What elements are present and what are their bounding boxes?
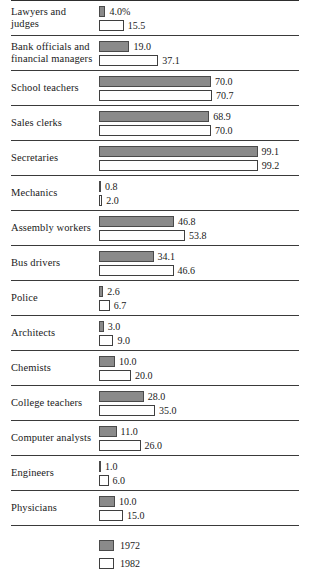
bar-value-label: 99.2: [262, 160, 280, 171]
bar-line: 15.5: [99, 20, 299, 31]
bar-value-label: 15.0: [127, 510, 145, 521]
bar-line: 15.0: [99, 510, 299, 521]
bar-line: 0.8: [99, 181, 299, 192]
bar-series-1972: [99, 6, 105, 17]
bar-value-label: 99.1: [262, 146, 280, 157]
bar-value-label: 68.9: [213, 111, 231, 122]
bar-value-label: 19.0: [133, 41, 151, 52]
bar-line: 3.0: [99, 321, 299, 332]
bar-value-label: 6.7: [114, 300, 127, 311]
chart-row: Bus drivers34.146.6: [0, 246, 310, 280]
bar-series-1972: [99, 76, 211, 87]
row-category-label: Police: [11, 292, 99, 305]
bar-line: 2.6: [99, 286, 299, 297]
bar-line: 46.8: [99, 216, 299, 227]
row-bar-group: 19.037.1: [99, 37, 299, 70]
chart-legend: 19721982: [0, 526, 310, 569]
row-category-label: Sales clerks: [11, 117, 99, 130]
bar-value-label: 70.0: [215, 125, 233, 136]
bar-line: 70.0: [99, 76, 299, 87]
bar-value-label: 0.8: [105, 181, 118, 192]
chart-row: Engineers1.06.0: [0, 456, 310, 490]
bar-series-1982: [99, 510, 123, 521]
bar-line: 11.0: [99, 426, 299, 437]
bar-series-1982: [99, 125, 211, 136]
bar-value-label: 10.0: [119, 356, 137, 367]
bar-value-label: 37.1: [162, 55, 180, 66]
bar-value-label: 28.0: [148, 391, 166, 402]
bar-value-label: 9.0: [117, 335, 130, 346]
bar-series-1972: [99, 41, 129, 52]
chart-row: Assembly workers46.853.8: [0, 211, 310, 245]
bar-series-1982: [99, 265, 174, 276]
row-category-label: Bank officials and financial managers: [11, 41, 99, 66]
chart-row: School teachers70.070.7: [0, 71, 310, 105]
legend-item: 1982: [99, 558, 299, 569]
row-bar-group: 34.146.6: [99, 247, 299, 280]
bar-line: 28.0: [99, 391, 299, 402]
bar-line: 68.9: [99, 111, 299, 122]
chart-row: Police2.66.7: [0, 281, 310, 315]
bar-series-1972: [99, 181, 101, 192]
bar-value-label: 15.5: [128, 20, 146, 31]
bar-series-1972: [99, 111, 209, 122]
row-bar-group: 28.035.0: [99, 387, 299, 420]
legend-swatch-1982: [99, 558, 114, 569]
bar-series-1982: [99, 20, 124, 31]
bar-line: 35.0: [99, 405, 299, 416]
chart-row: Chemists10.020.0: [0, 351, 310, 385]
bar-line: 70.7: [99, 90, 299, 101]
bar-line: 53.8: [99, 230, 299, 241]
row-bar-group: 2.66.7: [99, 282, 299, 315]
bar-series-1972: [99, 496, 115, 507]
bar-series-1972: [99, 146, 258, 157]
bar-value-label: 46.8: [178, 216, 196, 227]
bar-value-label: 6.0: [113, 475, 126, 486]
row-bar-group: 4.0%15.5: [99, 2, 299, 35]
chart-row: Computer analysts11.026.0: [0, 421, 310, 455]
bar-line: 37.1: [99, 55, 299, 66]
bar-series-1972: [99, 251, 154, 262]
row-category-label: College teachers: [11, 397, 99, 410]
bar-series-1972: [99, 461, 101, 472]
bar-line: 34.1: [99, 251, 299, 262]
bar-line: 6.7: [99, 300, 299, 311]
bar-value-label: 35.0: [159, 405, 177, 416]
bar-line: 46.6: [99, 265, 299, 276]
chart-row: College teachers28.035.0: [0, 386, 310, 420]
row-bar-group: 10.020.0: [99, 352, 299, 385]
legend-label: 1982: [120, 558, 140, 569]
bar-value-label: 1.0: [105, 461, 118, 472]
bar-line: 99.2: [99, 160, 299, 171]
bar-value-label: 70.7: [216, 90, 234, 101]
bar-line: 4.0%: [99, 6, 299, 17]
bar-value-label: 4.0%: [109, 6, 130, 17]
bar-series-1982: [99, 90, 212, 101]
bar-value-label: 46.6: [178, 265, 196, 276]
bar-series-1982: [99, 370, 131, 381]
row-category-label: Lawyers and judges: [11, 6, 99, 31]
bar-series-1972: [99, 286, 103, 297]
bar-series-1982: [99, 475, 109, 486]
bar-line: 10.0: [99, 356, 299, 367]
bar-series-1972: [99, 216, 174, 227]
bar-value-label: 3.0: [108, 321, 121, 332]
bar-value-label: 11.0: [121, 426, 138, 437]
bar-value-label: 26.0: [145, 440, 163, 451]
chart-rows: Lawyers and judges4.0%15.5Bank officials…: [0, 1, 310, 526]
bar-value-label: 70.0: [215, 76, 233, 87]
chart-row: Sales clerks68.970.0: [0, 106, 310, 140]
row-bar-group: 3.09.0: [99, 317, 299, 350]
chart-row: Lawyers and judges4.0%15.5: [0, 1, 310, 35]
bar-series-1972: [99, 426, 117, 437]
bar-line: 70.0: [99, 125, 299, 136]
row-bar-group: 11.026.0: [99, 422, 299, 455]
row-category-label: School teachers: [11, 82, 99, 95]
row-bar-group: 0.82.0: [99, 177, 299, 210]
bar-line: 9.0: [99, 335, 299, 346]
row-bar-group: 68.970.0: [99, 107, 299, 140]
row-category-label: Mechanics: [11, 187, 99, 200]
bar-series-1972: [99, 356, 115, 367]
row-bar-group: 1.06.0: [99, 457, 299, 490]
